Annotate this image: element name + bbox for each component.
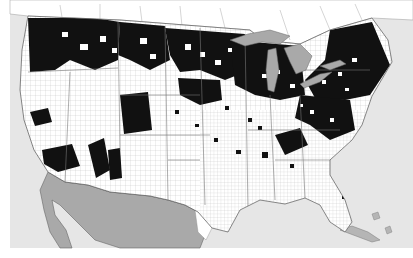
distribution-map: Pacific Northwest (WA, OR, ID)Montana / …	[0, 0, 413, 258]
occupied-region: Colorado	[120, 92, 152, 134]
occupied-region: New Mexico / Arizona pockets	[108, 148, 122, 180]
map-canvas: Pacific Northwest (WA, OR, ID)Montana / …	[0, 0, 413, 258]
